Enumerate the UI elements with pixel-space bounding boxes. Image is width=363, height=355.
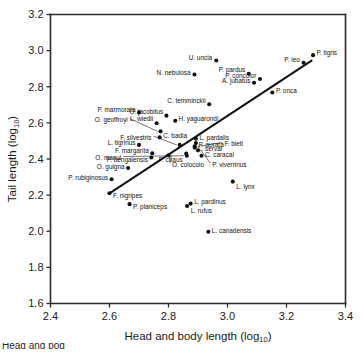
y-tick-label: 3.0 [28, 44, 43, 56]
x-tick-label: 2.4 [43, 310, 58, 322]
data-point-label: P. tigris [317, 49, 337, 57]
data-point-label: N. nebulosa [157, 69, 192, 76]
data-point-label: L. lynx [236, 183, 255, 191]
data-point-label: P. onca [276, 87, 297, 94]
data-point-label: F. bieti [225, 140, 243, 147]
data-point-marker [231, 180, 235, 184]
x-axis-title-main: Head and body length (log [124, 330, 259, 342]
y-tick-label: 1.8 [28, 261, 43, 273]
data-point-marker [173, 119, 177, 123]
data-point-label: O. manul [95, 154, 121, 161]
scatter-plot-svg: 3.23.02.82.62.42.22.01.81.62.42.62.83.03… [0, 0, 363, 355]
data-point-marker [194, 137, 198, 141]
x-tick-label: 3.0 [220, 310, 235, 322]
data-point-label: C. badia [163, 132, 187, 139]
x-axis-title: Head and body length (log10) [124, 330, 271, 345]
data-point-marker [128, 202, 132, 206]
data-point-label: P. viverrinus [212, 161, 246, 168]
x-tick-label: 2.6 [102, 310, 117, 322]
y-axis-title-sub: 10 [12, 120, 21, 128]
data-point-label: U. uncia [189, 54, 213, 61]
data-point-marker [185, 204, 189, 208]
data-point-marker [252, 81, 256, 85]
scatter-plot-figure: 3.23.02.82.62.42.22.01.81.62.42.62.83.03… [0, 0, 363, 355]
data-point-marker [149, 156, 153, 160]
data-point-marker [164, 114, 168, 118]
data-point-marker [311, 53, 315, 57]
data-point-marker [189, 202, 193, 206]
data-point-label: L. rufus [191, 207, 212, 214]
x-axis-title-suffix: ) [268, 330, 272, 342]
data-point-label: P. leo [284, 56, 300, 63]
data-point-label: A. jubatus [222, 77, 250, 85]
data-point-label: O. colocolo [172, 161, 204, 168]
data-point-marker [107, 191, 111, 195]
y-tick-label: 2.6 [28, 117, 43, 129]
data-point-marker [207, 102, 211, 106]
x-tick-label: 3.2 [279, 310, 294, 322]
data-point-marker [184, 152, 188, 156]
x-tick-label: 2.8 [161, 310, 176, 322]
data-point-marker [110, 177, 114, 181]
data-point-label: L. wiedii [130, 115, 153, 122]
caption-text: Head and bod [2, 343, 65, 351]
regression-line [110, 61, 312, 194]
data-point-marker [178, 143, 182, 147]
data-point-marker [199, 154, 203, 158]
data-point-label: O. guigna [97, 163, 125, 171]
data-point-marker [270, 90, 274, 94]
data-point-label: P. planiceps [133, 203, 167, 211]
y-tick-label: 2.4 [28, 153, 43, 165]
data-point-label: C. caracal [205, 151, 234, 158]
data-point-marker [192, 72, 196, 76]
data-point-marker [258, 77, 262, 81]
data-point-label: H. yaguarondi [179, 115, 219, 123]
data-point-marker [302, 61, 306, 65]
y-axis-title-suffix: ) [6, 116, 18, 120]
data-point-marker [155, 121, 159, 125]
data-point-label: L. pardinus [194, 198, 226, 206]
y-tick-label: 2.0 [28, 225, 43, 237]
y-axis-title-main: Tail length (log [6, 128, 18, 202]
y-tick-label: 2.2 [28, 189, 43, 201]
y-tick-label: 2.8 [28, 81, 43, 93]
data-point-label: P. rubiginosus [68, 174, 108, 182]
y-tick-label: 3.2 [28, 8, 43, 20]
data-point-marker [150, 151, 154, 155]
point-labels-group: P. tigrisP. leoU. unciaN. nebulosaP. par… [68, 49, 337, 234]
data-point-label: L. canadensis [212, 227, 251, 234]
data-point-marker [158, 135, 162, 139]
data-point-marker [214, 59, 218, 63]
data-point-label: O. geoffroyi [95, 116, 128, 124]
data-point-label: C. temminckii [167, 97, 205, 104]
x-tick-label: 3.4 [338, 310, 353, 322]
y-axis-title: Tail length (log10) [6, 116, 21, 203]
bottom-caption-strip: Head and bod [0, 343, 363, 355]
data-point-marker [158, 129, 162, 133]
data-point-marker [193, 146, 197, 150]
y-tick-label: 1.6 [28, 297, 43, 309]
data-point-marker [206, 230, 210, 234]
data-point-marker [126, 166, 130, 170]
data-point-label: F. nigripes [113, 192, 142, 200]
regression-line-group [110, 61, 312, 194]
